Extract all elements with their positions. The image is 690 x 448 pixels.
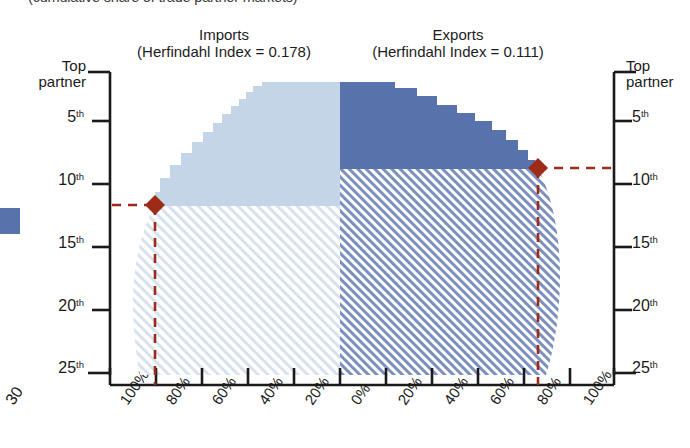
y-axis-left [88,72,110,375]
exports-solid-area [340,70,570,169]
exports-area-group [340,70,570,389]
exports-hatched-area [340,169,570,389]
chart-figure: (cumulative share of trade partner marke… [0,0,690,448]
imports-solid-area [120,70,345,206]
y-axis-right [614,72,636,375]
plot-canvas [0,0,690,448]
